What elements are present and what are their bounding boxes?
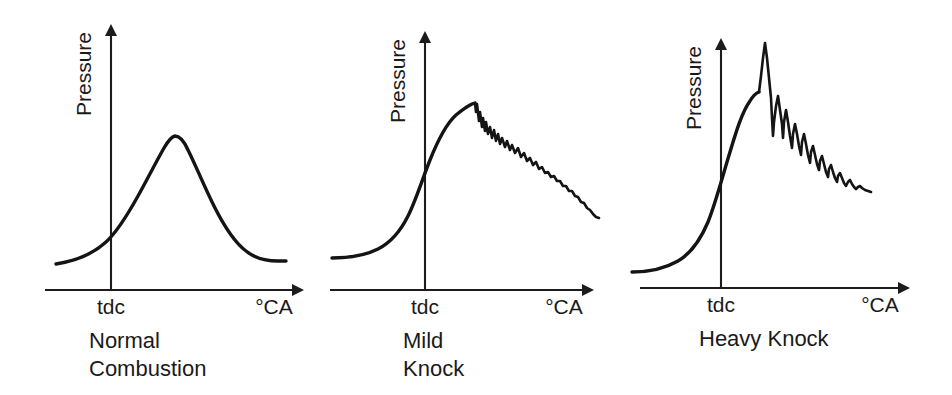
y-axis-label: Pressure (386, 39, 409, 123)
x-axis-label: °CA (545, 295, 583, 318)
panel-caption-line1: Normal (89, 328, 160, 353)
y-axis-arrowhead (105, 24, 117, 36)
panel-mild-knock: Pressure tdc °CA Mild Knock (310, 0, 630, 395)
panel-heavy-knock: Pressure tdc °CA Heavy Knock (620, 0, 952, 395)
y-axis-arrowhead (419, 31, 431, 43)
axes-group-1 (330, 31, 594, 296)
y-axis-label: Pressure (682, 46, 705, 130)
knock-oscillation-heavy (759, 43, 871, 192)
panel-caption-line1: Heavy Knock (699, 326, 830, 351)
y-axis-arrowhead (715, 38, 727, 50)
x-axis-arrowhead (582, 284, 594, 296)
tdc-label: tdc (97, 295, 125, 318)
axes-group-2 (640, 38, 910, 294)
pressure-trace-mild (332, 103, 475, 258)
tdc-label: tdc (707, 293, 735, 316)
x-axis-label: °CA (255, 295, 293, 318)
knock-oscillation-mild (475, 103, 599, 218)
x-axis-arrowhead (292, 284, 304, 296)
pressure-trace-normal (56, 136, 286, 264)
panel-caption-line2: Knock (403, 356, 465, 381)
y-axis-label: Pressure (72, 32, 95, 116)
knock-pressure-figure: Pressure tdc °CA Normal Combustion Press… (0, 0, 952, 395)
panel-caption-line2: Combustion (89, 356, 206, 381)
panel-caption-line1: Mild (403, 328, 443, 353)
x-axis-label: °CA (861, 293, 899, 316)
panel-normal-combustion: Pressure tdc °CA Normal Combustion (0, 0, 320, 395)
x-axis-arrowhead (898, 282, 910, 294)
tdc-label: tdc (411, 295, 439, 318)
